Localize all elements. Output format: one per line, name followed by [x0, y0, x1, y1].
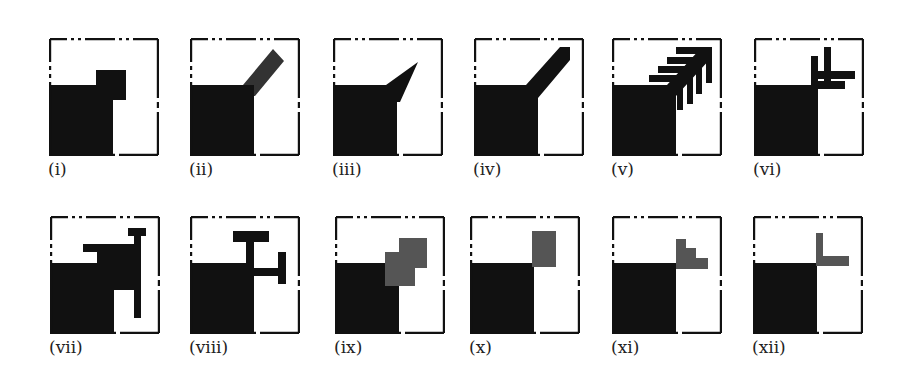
- panel-iii: [333, 38, 443, 156]
- panel-ix-graphic: [335, 216, 445, 334]
- panel-ii-graphic: [190, 38, 300, 156]
- panel-label-viii: (viii): [189, 337, 228, 357]
- panel-xi-graphic: [612, 216, 722, 334]
- panel-iv-graphic: [474, 38, 584, 156]
- panel-v-graphic: [612, 38, 722, 156]
- panel-ix: [335, 216, 445, 334]
- panel-label-xi: (xi): [611, 337, 639, 357]
- panel-label-ix: (ix): [334, 337, 362, 357]
- panel-ii: [190, 38, 300, 156]
- panel-xi: [612, 216, 722, 334]
- panel-label-iii: (iii): [332, 159, 362, 179]
- panel-vi-graphic: [754, 38, 864, 156]
- panel-vii: [50, 216, 160, 334]
- panel-viii-graphic: [190, 216, 300, 334]
- panel-label-vi: (vi): [753, 159, 781, 179]
- panel-v: [612, 38, 722, 156]
- panel-x: [470, 216, 580, 334]
- panel-label-i: (i): [48, 159, 67, 179]
- panel-x-graphic: [470, 216, 580, 334]
- panel-label-ii: (ii): [189, 159, 213, 179]
- panel-vi: [754, 38, 864, 156]
- panel-xii: [753, 216, 863, 334]
- panel-viii: [190, 216, 300, 334]
- panel-iv: [474, 38, 584, 156]
- panel-label-v: (v): [611, 159, 634, 179]
- panel-i-graphic: [49, 38, 159, 156]
- panel-iii-graphic: [333, 38, 443, 156]
- panel-xii-graphic: [753, 216, 863, 334]
- panel-label-vii: (vii): [49, 337, 83, 357]
- panel-label-iv: (iv): [473, 159, 501, 179]
- panel-label-xii: (xii): [752, 337, 786, 357]
- panel-i: [49, 38, 159, 156]
- panel-vii-graphic: [50, 216, 160, 334]
- panel-label-x: (x): [469, 337, 492, 357]
